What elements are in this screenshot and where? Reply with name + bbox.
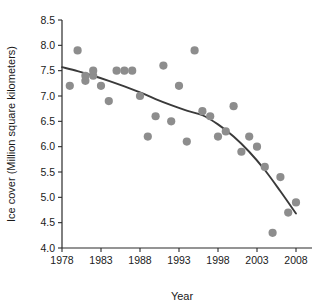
y-tick-label: 8.0 <box>40 39 55 51</box>
data-point <box>120 67 128 75</box>
x-tick-label: 1983 <box>89 254 113 266</box>
data-point <box>191 46 199 54</box>
data-point <box>292 198 300 206</box>
data-point <box>245 132 253 140</box>
data-point <box>159 62 167 70</box>
y-tick-label: 4.0 <box>40 242 55 254</box>
y-tick-label: 6.0 <box>40 140 55 152</box>
data-point <box>276 173 284 181</box>
data-point <box>237 148 245 156</box>
y-tick-label: 6.5 <box>40 115 55 127</box>
data-point <box>261 163 269 171</box>
data-point <box>113 67 121 75</box>
data-point <box>183 138 191 146</box>
x-tick-label: 2003 <box>245 254 269 266</box>
data-point <box>206 112 214 120</box>
data-point <box>230 102 238 110</box>
data-point <box>175 82 183 90</box>
x-tick-label: 2008 <box>284 254 308 266</box>
chart-figure: 4.04.55.05.56.06.57.07.58.08.5 197819831… <box>0 0 332 307</box>
data-point <box>284 208 292 216</box>
y-tick-label: 5.5 <box>40 166 55 178</box>
data-point <box>128 67 136 75</box>
x-tick-label: 1988 <box>128 254 152 266</box>
y-tick-label: 5.0 <box>40 191 55 203</box>
y-tick-label: 7.5 <box>40 64 55 76</box>
data-point <box>152 112 160 120</box>
data-point <box>222 127 230 135</box>
data-point <box>105 97 113 105</box>
y-axis-title: Ice cover (Million square kilometers) <box>5 46 17 222</box>
x-axis-title: Year <box>171 290 194 302</box>
data-point <box>269 229 277 237</box>
ice-cover-scatter-chart: 4.04.55.05.56.06.57.07.58.08.5 197819831… <box>0 0 332 307</box>
data-point <box>97 82 105 90</box>
data-point <box>198 107 206 115</box>
data-point <box>136 92 144 100</box>
data-point <box>144 132 152 140</box>
x-tick-label: 1998 <box>206 254 230 266</box>
x-tick-label: 1993 <box>167 254 191 266</box>
data-point <box>89 67 97 75</box>
data-point <box>167 117 175 125</box>
data-point <box>214 132 222 140</box>
data-point <box>253 143 261 151</box>
x-tick-label: 1978 <box>50 254 74 266</box>
data-point <box>81 72 89 80</box>
data-point <box>74 46 82 54</box>
y-tick-label: 8.5 <box>40 14 55 26</box>
y-tick-label: 4.5 <box>40 216 55 228</box>
y-tick-label: 7.0 <box>40 90 55 102</box>
data-point <box>66 82 74 90</box>
